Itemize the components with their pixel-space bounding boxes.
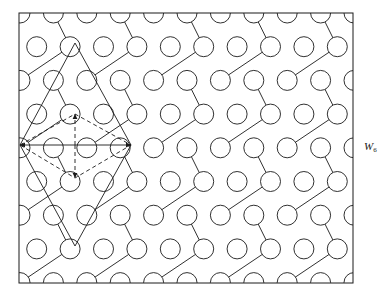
atom-circle: [177, 70, 197, 90]
atom-circle: [294, 172, 314, 192]
atom-circle: [127, 172, 147, 192]
atom-circle: [327, 172, 347, 192]
atom-circle: [261, 37, 281, 57]
atom-circle: [294, 104, 314, 124]
atom-circle: [43, 70, 63, 90]
atom-circle: [227, 37, 247, 57]
atom-circle: [327, 37, 347, 57]
unit-cell-label-subscript: 6: [373, 146, 377, 154]
atom-circle: [311, 70, 331, 90]
atom-circle: [311, 205, 331, 225]
atom-circle: [210, 138, 230, 158]
atom-circle: [311, 138, 331, 158]
unit-cell-label: W6: [364, 141, 377, 154]
atom-circle: [277, 70, 297, 90]
atom-circle: [244, 70, 264, 90]
atom-circle: [227, 172, 247, 192]
atom-circle: [261, 239, 281, 259]
atom-circle: [194, 37, 214, 57]
atom-circle: [194, 104, 214, 124]
atom-circle: [77, 138, 97, 158]
atom-circle: [160, 37, 180, 57]
atom-circle: [27, 239, 47, 259]
atom-circle: [210, 205, 230, 225]
atom-circle: [194, 239, 214, 259]
atom-circle: [94, 239, 114, 259]
atom-circle: [277, 138, 297, 158]
atom-circle: [127, 37, 147, 57]
atom-circle: [177, 138, 197, 158]
unit-cell-label-text: W: [364, 140, 373, 152]
atom-circle: [227, 239, 247, 259]
atom-circle: [43, 138, 63, 158]
atom-circle: [210, 70, 230, 90]
atom-circle: [110, 205, 130, 225]
atom-circle: [294, 37, 314, 57]
atom-circle: [144, 70, 164, 90]
atom-circle: [327, 104, 347, 124]
atom-circle: [227, 104, 247, 124]
atom-circle: [261, 172, 281, 192]
atom-circle: [77, 205, 97, 225]
atom-circle: [127, 104, 147, 124]
atom-circle: [194, 172, 214, 192]
atom-circle: [110, 138, 130, 158]
atom-circle: [43, 205, 63, 225]
atom-circle: [294, 239, 314, 259]
atom-circle: [177, 205, 197, 225]
atom-circle: [244, 138, 264, 158]
atom-circle: [60, 172, 80, 192]
atom-circle: [144, 205, 164, 225]
figure-canvas: W6: [0, 0, 390, 300]
atom-circle: [327, 239, 347, 259]
atom-circle: [110, 70, 130, 90]
atom-circle: [160, 104, 180, 124]
lattice-diagram: [0, 0, 390, 300]
atom-circle: [94, 37, 114, 57]
atom-circle: [27, 37, 47, 57]
atom-circle: [127, 239, 147, 259]
atom-circle: [144, 138, 164, 158]
atom-circle: [261, 104, 281, 124]
atom-circle: [77, 70, 97, 90]
atom-circle: [160, 172, 180, 192]
atom-circle: [160, 239, 180, 259]
atom-circle: [277, 205, 297, 225]
atom-circle: [244, 205, 264, 225]
